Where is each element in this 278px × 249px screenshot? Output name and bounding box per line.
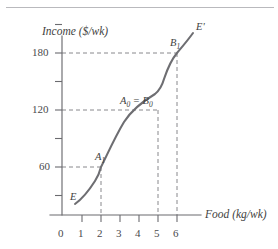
y-tick-label-180: 180 xyxy=(32,47,49,58)
x-tick-label-1: 1 xyxy=(78,228,84,239)
point-label-A1-sub: 1 xyxy=(101,156,105,165)
engel-curve-figure: Income ($/wk) Food (kg/wk) 180 120 60 0 … xyxy=(0,0,278,249)
y-tick-label-120: 120 xyxy=(32,104,49,115)
curve-end-label-E-prime: E' xyxy=(196,22,205,33)
x-axis-ticks xyxy=(82,215,177,222)
x-tick-label-3: 3 xyxy=(116,228,122,239)
y-axis-ticks xyxy=(55,25,62,196)
x-axis-title: Food (kg/wk) xyxy=(205,209,267,221)
x-tick-label-0: 0 xyxy=(58,228,64,239)
point-label-B1: B1 xyxy=(170,38,180,51)
x-tick-label-2: 2 xyxy=(97,228,103,239)
point-label-A0-eq-B0: A0 = B0 xyxy=(120,96,153,109)
x-tick-label-4: 4 xyxy=(135,228,141,239)
point-label-equals: = xyxy=(130,95,142,106)
axis-lines xyxy=(50,36,201,215)
guide-lines xyxy=(62,53,177,215)
curve-start-label-E: E xyxy=(70,192,76,203)
y-axis-title: Income ($/wk) xyxy=(42,26,108,38)
point-label-B0-sub: 0 xyxy=(149,100,153,109)
x-tick-label-6: 6 xyxy=(173,228,179,239)
y-tick-label-60: 60 xyxy=(39,161,50,172)
x-tick-label-5: 5 xyxy=(154,228,160,239)
engel-curve xyxy=(75,33,193,204)
point-label-A1: A1 xyxy=(95,152,105,165)
point-label-B1-sub: 1 xyxy=(176,42,180,51)
